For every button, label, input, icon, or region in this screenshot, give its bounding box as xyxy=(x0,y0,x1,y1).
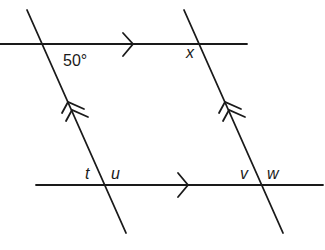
angle-label-50: 50° xyxy=(63,53,87,69)
diagram-lines xyxy=(0,0,325,250)
angle-label-x: x xyxy=(186,45,194,61)
angle-label-u: u xyxy=(111,166,120,182)
angle-label-t: t xyxy=(85,166,89,182)
double-parallel-arrow-icon xyxy=(223,110,245,121)
angle-label-w: w xyxy=(267,166,279,182)
angle-label-v: v xyxy=(240,166,248,182)
parallel-lines-diagram: 50° x t u v w xyxy=(0,0,325,250)
double-parallel-arrow-icon xyxy=(66,110,88,121)
